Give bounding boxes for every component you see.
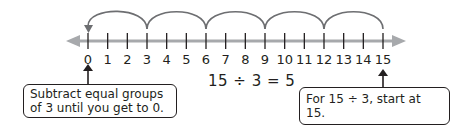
tick-label-3: 3	[143, 52, 151, 67]
callout-left-line1: Subtract equal groups	[30, 87, 170, 101]
tick-label-10: 10	[276, 52, 293, 67]
callout-right-text: For 15 ÷ 3, start at 15.	[306, 92, 421, 120]
tick-label-9: 9	[261, 52, 269, 67]
tick-label-8: 8	[241, 52, 249, 67]
tick-label-13: 13	[335, 52, 352, 67]
tick-label-5: 5	[182, 52, 190, 67]
jump-arcs	[88, 11, 383, 29]
callout-left-line2: of 3 until you get to 0.	[30, 101, 170, 115]
jump-arc-9-to-6	[206, 12, 265, 29]
jump-arc-15-to-12	[324, 12, 383, 29]
tick-label-14: 14	[355, 52, 372, 67]
jump-arc-6-to-3	[147, 12, 206, 29]
jump-arc-3-to-0	[88, 11, 147, 29]
tick-label-11: 11	[296, 52, 313, 67]
jump-arc-12-to-9	[265, 12, 324, 29]
right-arrow-head-icon	[392, 35, 406, 47]
right-pointer-arrow-icon	[378, 69, 388, 76]
tick-label-7: 7	[222, 52, 230, 67]
callout-subtract-groups: Subtract equal groups of 3 until you get…	[23, 84, 177, 118]
tick-label-15: 15	[375, 52, 392, 67]
tick-label-1: 1	[104, 52, 112, 67]
tick-label-6: 6	[202, 52, 210, 67]
tick-label-4: 4	[163, 52, 171, 67]
tick-label-2: 2	[123, 52, 131, 67]
tick-label-12: 12	[316, 52, 333, 67]
jump-end-arrow-icon	[84, 25, 93, 33]
left-arrow-head-icon	[66, 35, 80, 47]
division-equation: 15 ÷ 3 = 5	[208, 72, 295, 90]
tick-labels: 0123456789101112131415	[84, 52, 391, 67]
callout-start-at-15: For 15 ÷ 3, start at 15.	[299, 87, 450, 125]
